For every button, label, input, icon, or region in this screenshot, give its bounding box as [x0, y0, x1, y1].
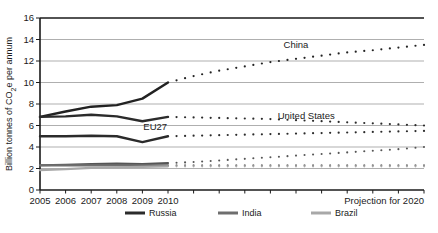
series-dot-united-states	[414, 130, 416, 132]
series-dot-china	[320, 55, 322, 57]
series-dot-china	[286, 59, 288, 61]
series-dot-united-states	[184, 135, 186, 137]
series-dot-brazil	[286, 165, 288, 167]
series-dot-russia	[355, 122, 357, 124]
series-dot-china	[338, 52, 340, 54]
series-dot-united-states	[406, 130, 408, 132]
series-dot-brazil	[414, 165, 416, 167]
series-dot-eu27	[269, 156, 271, 158]
series-dot-united-states	[346, 131, 348, 133]
y-tick-label-6: 6	[29, 120, 34, 131]
series-dot-eu27	[380, 149, 382, 151]
series-eu27	[40, 146, 425, 165]
y-axis-title: Billion tonnes of CO2e per annum	[4, 37, 17, 171]
series-dot-brazil	[218, 165, 220, 167]
series-dot-united-states	[210, 134, 212, 136]
series-india	[40, 164, 425, 166]
series-dot-eu27	[184, 161, 186, 163]
series-dot-brazil	[389, 165, 391, 167]
series-dot-russia	[175, 116, 177, 118]
legend-group: RussiaIndiaBrazil	[125, 208, 358, 218]
series-dot-china	[192, 75, 194, 77]
series-dot-united-states	[329, 132, 331, 134]
series-dot-china	[269, 61, 271, 63]
series-dot-china	[227, 68, 229, 70]
series-dot-brazil	[201, 165, 203, 167]
series-dot-brazil	[380, 165, 382, 167]
series-dot-brazil	[329, 165, 331, 167]
series-dot-eu27	[303, 154, 305, 156]
series-dot-eu27	[235, 158, 237, 160]
series-dot-united-states	[372, 131, 374, 133]
series-dot-eu27	[252, 157, 254, 159]
x-tick-label-2007: 2007	[81, 195, 102, 206]
series-dot-china	[372, 49, 374, 51]
series-dot-brazil	[261, 165, 263, 167]
series-dot-united-states	[303, 132, 305, 134]
series-dot-china	[423, 44, 425, 46]
y-tick-label-10: 10	[23, 77, 34, 88]
series-dot-russia	[363, 122, 365, 124]
series-dot-united-states	[423, 130, 425, 132]
series-dot-eu27	[278, 156, 280, 158]
series-dot-russia	[389, 123, 391, 125]
series-dot-russia	[423, 124, 425, 126]
series-dot-united-states	[218, 134, 220, 136]
series-dot-eu27	[414, 147, 416, 149]
series-dot-eu27	[397, 148, 399, 150]
y-tick-label-14: 14	[23, 34, 34, 45]
series-dot-china	[406, 46, 408, 48]
series-dot-china	[303, 57, 305, 59]
series-line-historical-united-states	[40, 136, 168, 142]
series-dot-brazil	[372, 165, 374, 167]
series-dot-brazil	[338, 165, 340, 167]
series-dot-eu27	[346, 151, 348, 153]
series-dot-united-states	[244, 134, 246, 136]
series-dot-united-states	[397, 130, 399, 132]
series-dot-eu27	[227, 159, 229, 161]
plot-label-china: China	[284, 39, 310, 50]
series-dot-brazil	[303, 165, 305, 167]
chart-canvas: 0246810121416200520062007200820092010Bil…	[0, 0, 438, 233]
series-dot-russia	[244, 117, 246, 119]
series-dot-eu27	[423, 146, 425, 148]
series-dot-eu27	[286, 155, 288, 157]
series-dot-brazil	[423, 165, 425, 167]
series-dot-china	[380, 48, 382, 50]
series-dot-russia	[227, 117, 229, 119]
series-dot-united-states	[363, 131, 365, 133]
series-dot-united-states	[261, 133, 263, 135]
series-dot-russia	[192, 116, 194, 118]
series-dot-russia	[261, 118, 263, 120]
legend-label-india: India	[242, 208, 262, 218]
series-dot-united-states	[312, 132, 314, 134]
series-dot-united-states	[252, 133, 254, 135]
series-dot-russia	[184, 116, 186, 118]
series-dot-brazil	[363, 165, 365, 167]
series-dot-brazil	[406, 165, 408, 167]
series-dot-brazil	[312, 165, 314, 167]
series-dot-china	[397, 46, 399, 48]
series-dot-eu27	[372, 150, 374, 152]
series-dot-eu27	[201, 160, 203, 162]
gridlines-group	[40, 40, 424, 169]
series-dot-russia	[372, 122, 374, 124]
series-dot-china	[295, 58, 297, 60]
series-dot-china	[244, 65, 246, 67]
series-dot-china	[389, 47, 391, 49]
series-dot-eu27	[355, 151, 357, 153]
series-dot-brazil	[269, 165, 271, 167]
series-dot-united-states	[355, 131, 357, 133]
series-dot-united-states	[380, 131, 382, 133]
series-dot-united-states	[269, 133, 271, 135]
series-dot-china	[355, 51, 357, 53]
series-dot-eu27	[329, 152, 331, 154]
series-russia	[40, 115, 425, 127]
y-tick-label-8: 8	[29, 98, 34, 109]
series-dot-united-states	[201, 134, 203, 136]
series-dot-russia	[397, 123, 399, 125]
series-dot-united-states	[175, 135, 177, 137]
series-china	[40, 44, 425, 117]
series-dot-china	[261, 62, 263, 64]
series-dot-russia	[338, 121, 340, 123]
